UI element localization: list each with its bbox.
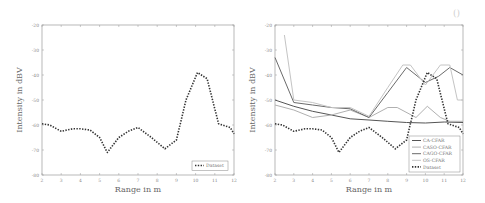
x-axis-label: Range in m xyxy=(346,185,393,194)
x-tick-label: 7 xyxy=(137,178,140,183)
x-tick-label: 9 xyxy=(175,178,178,183)
x-tick-label: 3 xyxy=(292,178,295,183)
y-tick-label: -30 xyxy=(32,48,39,53)
y-tick-label: -30 xyxy=(265,48,272,53)
legend: Dataset xyxy=(192,161,228,171)
y-tick-label: -50 xyxy=(265,98,272,103)
x-tick-label: 10 xyxy=(193,178,199,183)
y-tick-label: -70 xyxy=(32,148,39,153)
x-tick-label: 10 xyxy=(423,178,429,183)
y-tick-label: -80 xyxy=(265,173,272,178)
x-tick-label: 6 xyxy=(349,178,352,183)
legend-entry: Dataset xyxy=(206,163,224,168)
x-axis-label: Range in m xyxy=(115,185,162,194)
y-tick-label: -20 xyxy=(265,23,272,28)
y-tick-label: -50 xyxy=(32,98,39,103)
x-tick-label: 12 xyxy=(460,178,466,183)
x-tick-label: 8 xyxy=(386,178,389,183)
series-line-caso-cfar xyxy=(275,105,463,121)
x-tick-label: 3 xyxy=(60,178,63,183)
x-tick-label: 5 xyxy=(330,178,333,183)
legend-entry: OS-CFAR xyxy=(423,158,445,163)
x-tick-label: 9 xyxy=(405,178,408,183)
legend-entry: CA-CFAR xyxy=(423,138,445,143)
x-tick-label: 6 xyxy=(117,178,120,183)
y-axis-label: Intensity in dBV xyxy=(15,67,24,133)
y-tick-label: -70 xyxy=(265,148,272,153)
x-tick-label: 4 xyxy=(79,178,82,183)
x-tick-label: 7 xyxy=(368,178,371,183)
y-tick-label: -60 xyxy=(32,123,39,128)
legend-entry: Dataset xyxy=(423,165,441,170)
x-tick-label: 12 xyxy=(231,178,237,183)
x-tick-label: 5 xyxy=(98,178,101,183)
x-tick-label: 8 xyxy=(156,178,159,183)
series-line-dataset xyxy=(42,73,234,153)
figure-canvas: 23456789101112-20-30-40-50-60-70-80Range… xyxy=(0,0,485,203)
y-tick-label: -40 xyxy=(32,73,39,78)
axes-frame xyxy=(42,25,234,175)
left-plot: 23456789101112-20-30-40-50-60-70-80Range… xyxy=(15,23,237,195)
y-tick-label: -20 xyxy=(32,23,39,28)
corner-mark: () xyxy=(453,8,460,18)
y-tick-label: -60 xyxy=(265,123,272,128)
y-axis-label: Intensity in dBV xyxy=(248,67,257,133)
right-plot: 23456789101112-20-30-40-50-60-70-80Range… xyxy=(248,23,466,195)
x-tick-label: 11 xyxy=(212,178,218,183)
x-tick-label: 4 xyxy=(311,178,314,183)
y-tick-label: -80 xyxy=(32,173,39,178)
y-tick-label: -40 xyxy=(265,73,272,78)
legend-entry: CASO-CFAR xyxy=(423,145,452,150)
series-line-os-cfar xyxy=(284,35,463,116)
legend-entry: CAGO-CFAR xyxy=(423,151,453,156)
x-tick-label: 11 xyxy=(441,178,447,183)
x-tick-label: 2 xyxy=(274,178,277,183)
legend: CA-CFARCASO-CFARCAGO-CFAROS-CFARDataset xyxy=(409,136,460,172)
x-tick-label: 2 xyxy=(41,178,44,183)
